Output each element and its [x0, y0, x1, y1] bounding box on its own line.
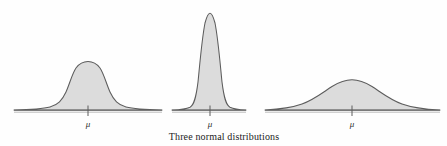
- figure-caption: Three normal distributions: [169, 131, 280, 142]
- curve-2-mean-label: μ: [207, 119, 213, 129]
- distribution-curve-2: μ: [172, 13, 246, 129]
- distribution-curve-1: μ: [14, 62, 162, 129]
- curve-1-path: [14, 62, 162, 110]
- curve-2-path: [172, 13, 246, 110]
- curve-1-mean-label: μ: [85, 119, 91, 129]
- curve-3-path: [265, 80, 440, 110]
- curve-3-mean-label: μ: [349, 119, 355, 129]
- normal-distributions-figure: μ μ μ Three normal distributions: [0, 0, 447, 146]
- distribution-curve-3: μ: [265, 80, 440, 129]
- figure-canvas: μ μ μ Three normal distributions: [0, 0, 447, 146]
